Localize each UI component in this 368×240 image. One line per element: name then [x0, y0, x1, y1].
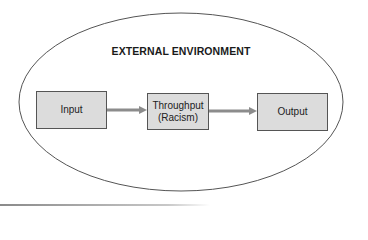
throughput-label: Throughput: [152, 100, 203, 112]
arrow-throughput-to-output: [209, 107, 257, 115]
arrow-input-to-throughput: [107, 106, 147, 114]
footer-divider: [0, 204, 210, 206]
output-box: Output: [257, 93, 328, 131]
throughput-box: Throughput (Racism): [147, 93, 209, 130]
output-label: Output: [277, 106, 307, 118]
throughput-sublabel: (Racism): [152, 112, 203, 124]
input-label: Input: [60, 104, 82, 116]
input-box: Input: [36, 91, 107, 129]
environment-label: EXTERNAL ENVIRONMENT: [0, 45, 362, 57]
